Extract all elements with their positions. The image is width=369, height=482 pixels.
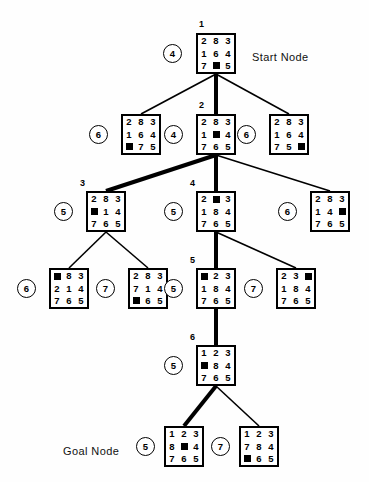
puzzle-tile: 8 — [290, 282, 302, 294]
puzzle-tile: 3 — [190, 428, 202, 440]
puzzle-tile: 4 — [324, 205, 336, 217]
node-cost-circle: 5 — [164, 202, 183, 221]
puzzle-tile: 3 — [290, 270, 302, 282]
puzzle-tile: 7 — [135, 141, 147, 153]
puzzle-tile: 5 — [336, 218, 348, 230]
tree-edge — [106, 232, 148, 268]
puzzle-tile: 4 — [222, 282, 234, 294]
puzzle-tile: 1 — [198, 128, 210, 140]
puzzle-state-node[interactable]: 23184765 — [276, 268, 316, 309]
puzzle-tile: 4 — [265, 440, 277, 452]
puzzle-tile: 7 — [198, 295, 210, 307]
puzzle-blank-tile — [210, 60, 222, 72]
puzzle-tile: 1 — [241, 428, 253, 440]
puzzle-blank-tile — [51, 270, 63, 282]
node-order-label: 3 — [80, 179, 85, 188]
puzzle-tile: 8 — [166, 440, 178, 452]
tree-edge — [216, 232, 296, 268]
puzzle-blank-tile — [123, 141, 135, 153]
node-cost-circle: 7 — [96, 279, 115, 298]
puzzle-grid: 28316475 — [271, 116, 307, 153]
puzzle-tile: 6 — [63, 295, 75, 307]
puzzle-tile: 6 — [210, 141, 222, 153]
search-tree-figure: 1428316475628316475242831476562831647535… — [0, 0, 369, 482]
puzzle-tile: 5 — [222, 218, 234, 230]
puzzle-tile: 2 — [253, 428, 265, 440]
puzzle-tile: 6 — [135, 128, 147, 140]
puzzle-grid: 28316475 — [198, 35, 234, 72]
puzzle-tile: 3 — [336, 193, 348, 205]
puzzle-blank-tile — [178, 440, 190, 452]
node-cost-circle: 5 — [136, 437, 155, 456]
puzzle-tile: 4 — [295, 128, 307, 140]
puzzle-tile: 1 — [123, 128, 135, 140]
puzzle-state-node[interactable]: 28314765 — [86, 191, 126, 232]
puzzle-grid: 28314765 — [198, 116, 234, 153]
node-order-label: 6 — [190, 333, 195, 342]
node-cost-circle: 7 — [244, 279, 263, 298]
puzzle-state-node[interactable]: 12384765 — [164, 426, 204, 467]
puzzle-tile: 6 — [290, 295, 302, 307]
puzzle-tile: 8 — [135, 116, 147, 128]
puzzle-state-node[interactable]: 28316475 — [269, 114, 309, 155]
puzzle-tile: 3 — [222, 347, 234, 359]
node-cost-circle: 5 — [164, 279, 183, 298]
node-cost-circle: 6 — [237, 125, 256, 144]
puzzle-state-node[interactable]: 12384765 — [196, 345, 236, 386]
puzzle-tile: 7 — [241, 440, 253, 452]
puzzle-state-node[interactable]: 83214765 — [49, 268, 89, 309]
puzzle-tile: 2 — [51, 282, 63, 294]
puzzle-blank-tile — [336, 205, 348, 217]
puzzle-state-node[interactable]: 23184765 — [196, 191, 236, 232]
puzzle-tile: 2 — [88, 193, 100, 205]
puzzle-tile: 5 — [302, 295, 314, 307]
node-order-label: 1 — [199, 20, 204, 29]
tree-edge — [184, 386, 216, 426]
puzzle-state-node[interactable]: 28314765 — [310, 191, 350, 232]
node-cost-circle: 6 — [278, 202, 297, 221]
puzzle-tile: 5 — [147, 141, 159, 153]
puzzle-tile: 6 — [178, 453, 190, 465]
puzzle-tile: 7 — [166, 453, 178, 465]
puzzle-tile: 1 — [312, 205, 324, 217]
puzzle-tile: 5 — [265, 453, 277, 465]
puzzle-tile: 1 — [166, 428, 178, 440]
puzzle-tile: 3 — [75, 270, 87, 282]
puzzle-state-node[interactable]: 28371465 — [128, 268, 168, 309]
tree-edge — [216, 74, 289, 114]
puzzle-state-node[interactable]: 28314765 — [196, 114, 236, 155]
puzzle-blank-tile — [198, 359, 210, 371]
puzzle-state-node[interactable]: 12378465 — [239, 426, 279, 467]
puzzle-state-node[interactable]: 28316475 — [121, 114, 161, 155]
puzzle-tile: 1 — [63, 282, 75, 294]
puzzle-blank-tile — [88, 205, 100, 217]
tree-edge — [106, 155, 216, 191]
puzzle-tile: 5 — [222, 372, 234, 384]
puzzle-tile: 5 — [75, 295, 87, 307]
puzzle-tile: 1 — [198, 47, 210, 59]
puzzle-tile: 2 — [312, 193, 324, 205]
puzzle-tile: 4 — [222, 128, 234, 140]
puzzle-tile: 8 — [142, 270, 154, 282]
node-cost-circle: 7 — [211, 437, 230, 456]
puzzle-tile: 3 — [222, 193, 234, 205]
puzzle-tile: 6 — [210, 218, 222, 230]
puzzle-tile: 2 — [271, 116, 283, 128]
puzzle-tile: 2 — [198, 35, 210, 47]
puzzle-blank-tile — [210, 128, 222, 140]
puzzle-state-node[interactable]: 23184765 — [196, 268, 236, 309]
puzzle-tile: 5 — [222, 141, 234, 153]
puzzle-tile: 8 — [210, 35, 222, 47]
puzzle-tile: 2 — [178, 428, 190, 440]
node-cost-circle: 5 — [54, 202, 73, 221]
puzzle-tile: 7 — [271, 141, 283, 153]
puzzle-tile: 8 — [210, 359, 222, 371]
puzzle-tile: 3 — [295, 116, 307, 128]
puzzle-tile: 8 — [100, 193, 112, 205]
puzzle-grid: 23184765 — [198, 270, 234, 307]
puzzle-tile: 4 — [222, 47, 234, 59]
puzzle-tile: 5 — [283, 141, 295, 153]
puzzle-state-node[interactable]: 28316475 — [196, 33, 236, 74]
node-order-label: 2 — [199, 101, 204, 110]
puzzle-tile: 8 — [210, 205, 222, 217]
